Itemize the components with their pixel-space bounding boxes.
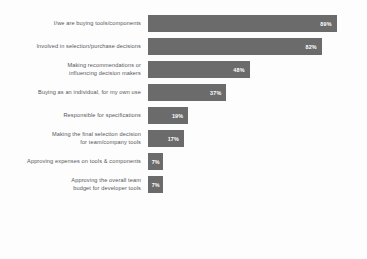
bar-value-label: 89% — [320, 21, 336, 27]
bar-track: 37% — [148, 84, 360, 101]
horizontal-bar-chart: I/we are buying tools/components89%Invol… — [0, 0, 367, 259]
bar-category-label: Involved in selection/purchase decisions — [0, 43, 148, 51]
bar: 19% — [148, 107, 188, 124]
chart-row: Making the final selection decision for … — [0, 127, 367, 150]
bar-track: 17% — [148, 130, 360, 147]
bar-track: 7% — [148, 153, 360, 170]
bar-category-label: Responsible for specifications — [0, 112, 148, 120]
bar-value-label: 7% — [152, 182, 163, 188]
bar: 7% — [148, 153, 163, 170]
bar: 48% — [148, 61, 250, 78]
bar-category-label: I/we are buying tools/components — [0, 20, 148, 28]
bar-category-label: Making the final selection decision for … — [0, 131, 148, 146]
chart-row: Approving the overall team budget for de… — [0, 173, 367, 196]
chart-row: I/we are buying tools/components89% — [0, 12, 367, 35]
bar: 82% — [148, 38, 322, 55]
bar: 37% — [148, 84, 226, 101]
chart-row: Making recommendations or influencing de… — [0, 58, 367, 81]
chart-rows: I/we are buying tools/components89%Invol… — [0, 12, 367, 196]
bar-category-label: Approving expenses on tools & components — [0, 158, 148, 166]
bar-value-label: 17% — [168, 136, 184, 142]
bar-value-label: 7% — [152, 159, 163, 165]
bar-track: 48% — [148, 61, 360, 78]
bar-value-label: 19% — [172, 113, 188, 119]
chart-row: Buying as an individual, for my own use3… — [0, 81, 367, 104]
chart-row: Involved in selection/purchase decisions… — [0, 35, 367, 58]
chart-row: Responsible for specifications19% — [0, 104, 367, 127]
bar-value-label: 82% — [305, 44, 321, 50]
bar-category-label: Making recommendations or influencing de… — [0, 62, 148, 77]
bar-track: 89% — [148, 15, 360, 32]
bar-value-label: 48% — [233, 67, 249, 73]
bar: 89% — [148, 15, 337, 32]
chart-row: Approving expenses on tools & components… — [0, 150, 367, 173]
bar-track: 82% — [148, 38, 360, 55]
bar: 7% — [148, 176, 163, 193]
bar-value-label: 37% — [210, 90, 226, 96]
bar: 17% — [148, 130, 184, 147]
bar-track: 7% — [148, 176, 360, 193]
bar-track: 19% — [148, 107, 360, 124]
bar-category-label: Buying as an individual, for my own use — [0, 89, 148, 97]
bar-category-label: Approving the overall team budget for de… — [0, 177, 148, 192]
